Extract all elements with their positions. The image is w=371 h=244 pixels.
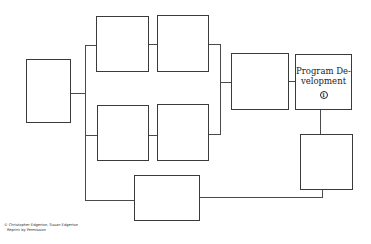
connector-bottom-1-2: [149, 135, 157, 136]
program-development-label: Program De- velopment: [296, 66, 351, 86]
step-number-badge: 1: [320, 91, 328, 99]
bottom-box-1: [97, 105, 149, 161]
label-line-2: velopment: [296, 76, 351, 86]
connector-middle-to-program: [289, 81, 295, 82]
copyright-credit: © Christopher Edgerton, Susan Edgerton R…: [4, 223, 78, 232]
bottom-box: [134, 175, 200, 221]
bottom-box-2: [157, 104, 209, 161]
connector-program-to-right-lower: [320, 110, 321, 134]
middle-box: [231, 53, 289, 110]
left-trunk: [85, 45, 86, 200]
credit-line-1: © Christopher Edgerton, Susan Edgerton: [4, 223, 78, 228]
connector-right-up: [322, 190, 323, 198]
connector-left-to-trunk: [71, 93, 85, 94]
right-lower-box: [300, 134, 353, 190]
connector-trunk-to-top: [85, 45, 96, 46]
credit-line-2: Reprint by Permission: [4, 228, 78, 233]
connector-bottom-to-right: [200, 197, 323, 198]
top-box-1: [96, 16, 149, 72]
top-box-2: [157, 15, 209, 72]
connector-trunk-to-bottom: [85, 135, 97, 136]
program-development-box: Program De- velopment 1: [295, 54, 352, 110]
connector-trunk-to-bottom-box: [85, 200, 134, 201]
label-line-1: Program De-: [296, 66, 351, 76]
connector-top-1-2: [149, 44, 157, 45]
merge-trunk: [220, 44, 221, 135]
connector-merge-to-middle: [220, 82, 231, 83]
left-box: [26, 59, 71, 123]
